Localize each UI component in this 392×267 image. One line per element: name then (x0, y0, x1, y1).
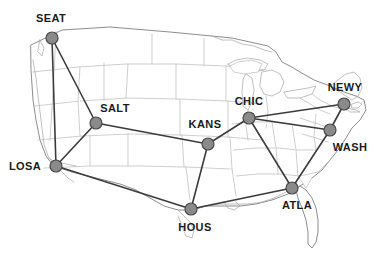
network-node-atla[interactable] (286, 182, 298, 194)
node-label-salt: SALT (100, 103, 130, 114)
node-label-losa: LOSA (9, 161, 41, 172)
network-node-newy[interactable] (338, 98, 350, 110)
state-line-h3 (38, 134, 262, 140)
node-label-atla: ATLA (282, 200, 312, 211)
state-line-ne3 (300, 118, 324, 126)
network-link-chic-atla[interactable] (249, 118, 292, 188)
great-lakes-erie-ontario (284, 86, 316, 98)
node-label-kans: KANS (189, 119, 222, 130)
state-line-h7 (234, 148, 316, 150)
node-label-wash: WASH (333, 142, 368, 153)
us-basemap (31, 27, 366, 248)
state-line-v15 (186, 167, 190, 200)
network-node-wash[interactable] (324, 124, 336, 136)
state-michigan-upper (230, 60, 262, 74)
puget-sound-detail (38, 40, 44, 56)
network-node-losa[interactable] (50, 160, 62, 172)
network-node-kans[interactable] (202, 138, 214, 150)
network-link-losa-hous[interactable] (56, 166, 191, 209)
state-line-ne5 (318, 160, 330, 172)
network-link-kans-hous[interactable] (191, 144, 208, 209)
state-line-v14 (230, 137, 232, 169)
florida-peninsula (296, 186, 318, 248)
network-node-hous[interactable] (185, 203, 197, 215)
gulf-coast-detail (192, 188, 296, 210)
network-node-salt[interactable] (90, 117, 102, 129)
node-label-seat: SEAT (36, 13, 66, 24)
northern-border-detail (212, 36, 272, 52)
node-label-chic: CHIC (235, 96, 264, 107)
network-link-seat-salt[interactable] (52, 38, 96, 123)
network-map-figure: SEATSALTLOSAKANSCHICHOUSATLAWASHNEWY (0, 0, 392, 267)
node-label-hous: HOUS (178, 222, 211, 233)
node-label-newy: NEWY (328, 82, 363, 93)
state-line-h8 (236, 172, 318, 176)
network-node-chic[interactable] (243, 112, 255, 124)
network-node-seat[interactable] (46, 32, 58, 44)
state-line-v2 (78, 67, 80, 136)
state-line-v21 (314, 114, 316, 150)
state-line-v16 (232, 169, 236, 196)
cape-cod-detail (352, 102, 362, 108)
state-line-v6 (50, 108, 52, 140)
network-link-chic-newy[interactable] (249, 104, 344, 118)
great-lakes-huron-erie (260, 70, 284, 96)
